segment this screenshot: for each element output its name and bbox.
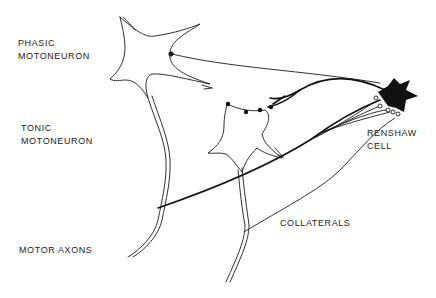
phasic-motor-axon: [128, 98, 166, 257]
renshaw-axon-to-tonic: [268, 79, 385, 107]
renshaw-label-line1: RENSHAW: [367, 128, 417, 138]
renshaw-label-line2: CELL: [367, 141, 392, 151]
renshaw-cell-body: [378, 78, 418, 112]
phasic-label-line1: PHASIC: [18, 38, 55, 48]
motor-axons-label: MOTOR AXONS: [19, 244, 92, 257]
phasic-motoneuron-label: PHASICMOTONEURON: [18, 37, 90, 63]
tonic-motor-axon: [226, 170, 245, 282]
phasic-label-line2: MOTONEURON: [18, 51, 90, 61]
tonic-motoneuron-label: TONICMOTONEURON: [21, 122, 93, 148]
collaterals-label: COLLATERALS: [280, 217, 350, 230]
phasic-motoneuron-soma: [110, 17, 210, 98]
tonic-label-line2: MOTONEURON: [21, 136, 93, 146]
tonic-label-line1: TONIC: [21, 123, 52, 133]
renshaw-circuit-diagram: PHASICMOTONEURON TONICMOTONEURON RENSHAW…: [0, 0, 436, 298]
renshaw-cell-label: RENSHAWCELL: [367, 127, 417, 153]
